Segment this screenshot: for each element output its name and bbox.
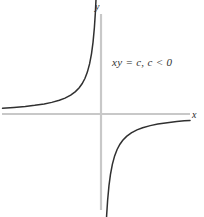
- hyperbola-figure: y x xy = c, c < 0: [0, 0, 204, 217]
- plot-canvas: [0, 0, 204, 217]
- hyperbola-branch-lower-right: [104, 120, 190, 217]
- y-axis-label: y: [95, 2, 99, 12]
- hyperbola-branch-upper-left: [3, 0, 98, 108]
- equation-annotation: xy = c, c < 0: [112, 57, 172, 68]
- x-axis-label: x: [192, 110, 196, 120]
